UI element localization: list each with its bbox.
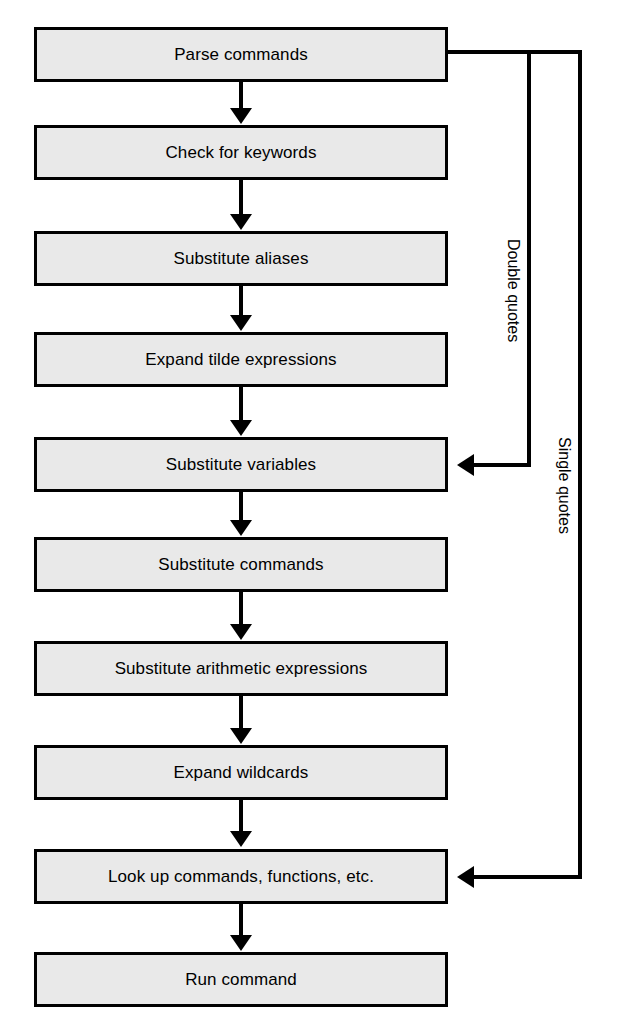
- flow-arrow-wildcards-to-lookup-line: [239, 800, 243, 832]
- flow-node-substitute-aliases[interactable]: Substitute aliases: [34, 231, 448, 286]
- flow-arrow-parse-to-keywords-line: [239, 82, 243, 109]
- flow-arrow-aliases-to-tilde-line: [239, 286, 243, 316]
- flow-arrow-variables-to-commands-head: [230, 520, 252, 536]
- flow-arrow-wildcards-to-lookup-head: [230, 831, 252, 847]
- single-quotes-edge-label: Single quotes: [556, 437, 572, 534]
- flow-arrow-keywords-to-aliases-line: [239, 180, 243, 215]
- double-quotes-edge-bottom-horizontal: [474, 463, 531, 467]
- flow-node-substitute-commands[interactable]: Substitute commands: [34, 537, 448, 592]
- flow-node-label: Substitute arithmetic expressions: [115, 660, 368, 677]
- flowchart-canvas: Parse commands Check for keywords Substi…: [0, 0, 636, 1024]
- flow-arrow-tilde-to-variables-head: [230, 420, 252, 436]
- flow-arrow-parse-to-keywords-head: [230, 108, 252, 124]
- flow-node-label: Substitute commands: [158, 556, 323, 573]
- flow-node-label: Substitute variables: [166, 456, 316, 473]
- flow-node-check-for-keywords[interactable]: Check for keywords: [34, 125, 448, 180]
- flow-node-look-up-commands[interactable]: Look up commands, functions, etc.: [34, 849, 448, 904]
- flow-node-label: Expand wildcards: [174, 764, 309, 781]
- flow-node-label: Run command: [185, 971, 297, 988]
- flow-arrow-variables-to-commands-line: [239, 492, 243, 521]
- single-quotes-edge-arrowhead: [457, 866, 474, 888]
- single-quotes-edge-vertical: [578, 50, 582, 877]
- double-quotes-edge-label: Double quotes: [505, 239, 521, 342]
- flow-node-label: Check for keywords: [165, 144, 316, 161]
- flow-node-label: Look up commands, functions, etc.: [108, 868, 374, 885]
- flow-node-label: Expand tilde expressions: [145, 351, 336, 368]
- flow-node-run-command[interactable]: Run command: [34, 952, 448, 1007]
- flow-node-expand-wildcards[interactable]: Expand wildcards: [34, 745, 448, 800]
- flow-arrow-arithmetic-to-wildcards-line: [239, 696, 243, 729]
- flow-node-label: Substitute aliases: [173, 250, 308, 267]
- flow-arrow-keywords-to-aliases-head: [230, 214, 252, 230]
- flow-node-substitute-variables[interactable]: Substitute variables: [34, 437, 448, 492]
- flow-arrow-lookup-to-run-head: [230, 935, 252, 951]
- flow-node-parse-commands[interactable]: Parse commands: [34, 27, 448, 82]
- double-quotes-edge-top-horizontal: [448, 50, 531, 54]
- flow-arrow-aliases-to-tilde-head: [230, 315, 252, 331]
- flow-arrow-commands-to-arithmetic-line: [239, 592, 243, 625]
- flow-node-expand-tilde-expressions[interactable]: Expand tilde expressions: [34, 332, 448, 387]
- flow-arrow-tilde-to-variables-line: [239, 387, 243, 421]
- flow-arrow-commands-to-arithmetic-head: [230, 624, 252, 640]
- single-quotes-edge-bottom-horizontal: [474, 875, 582, 879]
- single-quotes-edge-top-horizontal: [527, 50, 582, 54]
- flow-arrow-lookup-to-run-line: [239, 904, 243, 936]
- flow-arrow-arithmetic-to-wildcards-head: [230, 728, 252, 744]
- double-quotes-edge-vertical: [527, 50, 531, 465]
- double-quotes-edge-arrowhead: [457, 454, 474, 476]
- flow-node-label: Parse commands: [174, 46, 308, 63]
- flow-node-substitute-arithmetic-expressions[interactable]: Substitute arithmetic expressions: [34, 641, 448, 696]
